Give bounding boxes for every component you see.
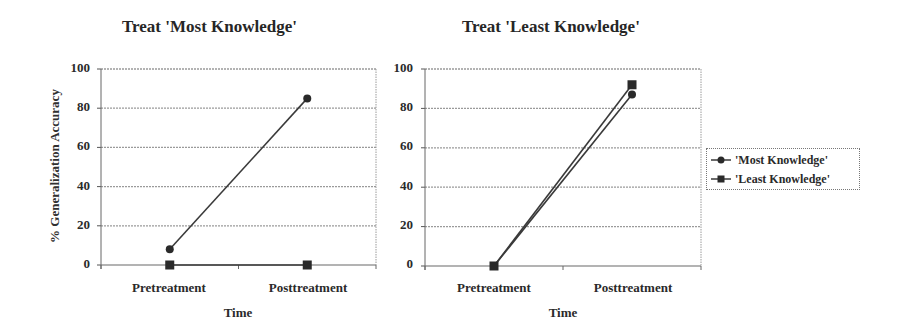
circle-marker-icon xyxy=(628,91,636,99)
series-most-knowledge xyxy=(166,94,312,253)
legend-label: 'Most Knowledge' xyxy=(735,153,828,168)
circle-marker-icon xyxy=(303,94,311,102)
square-marker-icon xyxy=(490,262,499,271)
square-marker-icon xyxy=(628,80,637,89)
square-marker-icon xyxy=(303,261,312,270)
legend-item-most-knowledge: 'Most Knowledge' xyxy=(711,152,828,168)
circle-marker-icon xyxy=(166,245,174,253)
circle-marker-icon xyxy=(711,154,731,166)
legend-item-least-knowledge: 'Least Knowledge' xyxy=(711,171,830,187)
legend-label: 'Least Knowledge' xyxy=(735,172,830,187)
square-marker-icon xyxy=(711,173,731,185)
square-marker-icon xyxy=(165,261,174,270)
legend: 'Most Knowledge' 'Least Knowledge' xyxy=(706,148,860,190)
